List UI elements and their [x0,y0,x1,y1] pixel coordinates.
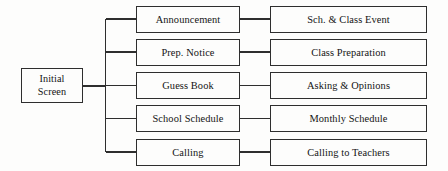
node-menu-announcement[interactable]: Announcement [136,6,240,33]
node-detail-calling-to-teachers[interactable]: Calling to Teachers [270,139,427,166]
node-detail-asking-opinions-label: Asking & Opinions [307,80,390,92]
node-detail-asking-opinions[interactable]: Asking & Opinions [270,72,427,99]
diagram-canvas: Initial Screen Announcement Prep. Notice… [0,0,448,171]
node-detail-sch-class-event-label: Sch. & Class Event [307,14,390,26]
node-detail-monthly-schedule[interactable]: Monthly Schedule [270,105,427,132]
node-menu-prep-notice[interactable]: Prep. Notice [136,39,240,66]
node-menu-school-schedule[interactable]: School Schedule [136,105,240,132]
node-menu-calling-label: Calling [172,147,203,159]
node-initial-screen[interactable]: Initial Screen [21,68,83,103]
node-menu-announcement-label: Announcement [156,14,221,26]
node-menu-prep-notice-label: Prep. Notice [161,47,214,59]
node-menu-guess-book[interactable]: Guess Book [136,72,240,99]
node-initial-screen-label: Initial Screen [38,73,66,99]
node-menu-guess-book-label: Guess Book [162,80,214,92]
node-menu-school-schedule-label: School Schedule [152,113,223,125]
node-detail-sch-class-event[interactable]: Sch. & Class Event [270,6,427,33]
node-detail-class-preparation[interactable]: Class Preparation [270,39,427,66]
node-detail-class-preparation-label: Class Preparation [311,47,386,59]
node-detail-monthly-schedule-label: Monthly Schedule [309,113,387,125]
node-detail-calling-to-teachers-label: Calling to Teachers [307,147,389,159]
node-menu-calling[interactable]: Calling [136,139,240,166]
